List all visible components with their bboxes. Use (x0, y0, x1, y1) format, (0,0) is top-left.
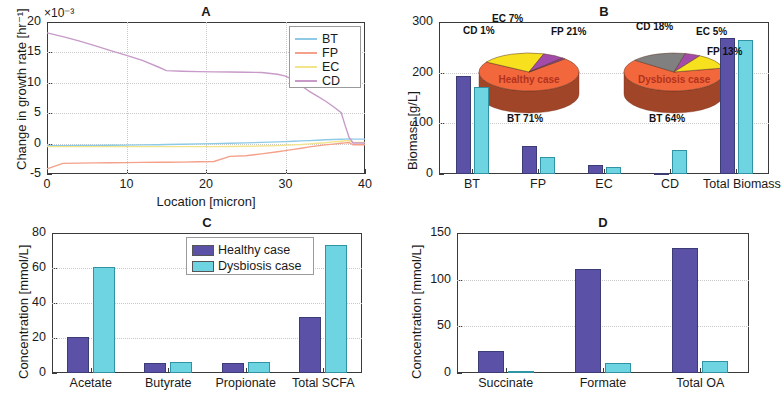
paneld-bar-succinate-healthy (478, 351, 504, 373)
panelc-bar-total-scfa-healthy (299, 317, 321, 373)
panelb-bar-ec-dysbiosis (606, 167, 621, 174)
legend-swatch-healthy (192, 245, 214, 256)
figure-root: A×10⁻³-505101520010203040Change in growt… (0, 0, 782, 414)
paneld-gridline (457, 280, 749, 281)
panel-a-ytickmark (47, 174, 52, 175)
panelc-xtick-0: Acetate (52, 376, 130, 390)
pie-healthy-label-2: EC 7% (492, 13, 523, 24)
panel-c: C020406080Concentration [mmol/L]AcetateB… (0, 207, 391, 414)
paneld-xtick-1: Formate (554, 376, 651, 390)
panelb-bar-total-biomass-dysbiosis (738, 40, 753, 174)
pie-dysbiosis-label-3: FP 13% (707, 46, 742, 57)
panelc-xtickmark (246, 368, 247, 373)
paneld-ytickmark (457, 373, 462, 374)
pie-dysbiosis-label-0: BT 64% (649, 113, 685, 124)
legend-label-healthy: Healthy case (218, 243, 290, 257)
panelc-bar-acetate-healthy (67, 337, 89, 373)
panelb-bar-bt-dysbiosis (474, 87, 489, 174)
panel-a-xtickmark (365, 169, 366, 174)
pie-dysbiosis-center-label: Dysbiosis case (638, 74, 710, 85)
pie-dysbiosis-label-2: EC 5% (696, 26, 727, 37)
panelc-xtick-1: Butyrate (130, 376, 208, 390)
panelc-bar-acetate-dysbiosis (93, 267, 115, 373)
panelc-xtick-2: Propionate (207, 376, 285, 390)
legend-line-ec (295, 66, 317, 68)
panelc-xtickmark (91, 368, 92, 373)
panel-a-legend-item-fp: FP (295, 46, 338, 60)
legend-label-ec: EC (322, 60, 339, 74)
paneld-bar-total-oa-dysbiosis (702, 361, 728, 373)
panel-a: A×10⁻³-505101520010203040Change in growt… (0, 0, 391, 207)
panelb-bar-cd-healthy (654, 173, 669, 175)
pie-healthy-label-1: FP 21% (551, 26, 586, 37)
legend-label-fp: FP (322, 46, 338, 60)
panelb-bar-bt-healthy (456, 76, 471, 174)
paneld-ylabel: Concentration [mmol/L] (409, 245, 424, 379)
paneld-xtickmark (506, 368, 507, 373)
panelc-bar-total-scfa-dysbiosis (325, 245, 347, 373)
panel-a-xtickmark (47, 169, 48, 174)
panel-c-legend-item-dysbiosis: Dysbiosis case (192, 259, 301, 273)
panel-a-exponent: ×10⁻³ (44, 6, 74, 20)
panelc-ytick: 80 (10, 225, 46, 239)
panelc-xtickmark (168, 368, 169, 373)
panel-a-gridline-v (206, 22, 207, 174)
paneld-bar-succinate-dysbiosis (508, 371, 534, 373)
panel-a-ytickmark (47, 22, 52, 23)
panel-a-gridline-v (127, 22, 128, 174)
panelc-bar-butyrate-healthy (144, 363, 166, 373)
legend-line-bt (295, 38, 317, 40)
paneld-ytickmark (457, 233, 462, 234)
pie-healthy-label-3: CD 1% (463, 25, 495, 36)
panel-a-xtick: 0 (29, 177, 65, 191)
panel-a-legend-item-ec: EC (295, 60, 339, 74)
pie-healthy-center-label: Healthy case (493, 74, 565, 85)
paneld-gridline (457, 326, 749, 327)
paneld-xtickmark (603, 368, 604, 373)
panel-b: B0100200300Biomass [g/L]BTFPECCDTotal Bi… (391, 0, 782, 207)
paneld-ytick: 150 (415, 225, 451, 239)
legend-line-cd (295, 80, 317, 82)
panelb-bar-cd-dysbiosis (672, 150, 687, 174)
legend-line-fp (295, 52, 317, 54)
pie-healthy-label-0: BT 71% (507, 113, 543, 124)
panelc-ytickmark (52, 373, 57, 374)
panelb-bar-total-biomass-healthy (720, 38, 735, 174)
panel-a-title: A (47, 4, 365, 19)
paneld-bar-formate-healthy (575, 269, 601, 373)
panel-a-legend-item-bt: BT (295, 32, 338, 46)
legend-label-dysbiosis: Dysbiosis case (218, 259, 301, 273)
pie-dysbiosis-label-1: CD 18% (636, 21, 673, 32)
paneld-xtick-0: Succinate (457, 376, 554, 390)
paneld-bar-formate-dysbiosis (605, 363, 631, 373)
panelc-ylabel: Concentration [mmol/L] (16, 245, 31, 379)
panelc-title: C (52, 215, 362, 230)
panelc-xtick-3: Total SCFA (285, 376, 363, 390)
panelc-ytickmark (52, 233, 57, 234)
panelb-bar-ec-healthy (588, 165, 603, 174)
panel-a-ylabel: Change in growth rate [hr⁻¹] (14, 8, 29, 170)
panel-a-xtick: 40 (347, 177, 383, 191)
panelc-bar-butyrate-dysbiosis (170, 362, 192, 373)
panel-d: D050100150Concentration [mmol/L]Succinat… (391, 207, 782, 414)
panelc-bar-propionate-dysbiosis (248, 362, 270, 373)
panel-a-xtick: 10 (109, 177, 145, 191)
panel-a-xtick: 30 (268, 177, 304, 191)
panel-c-legend-item-healthy: Healthy case (192, 243, 290, 257)
panelb-bar-fp-dysbiosis (540, 157, 555, 174)
legend-label-cd: CD (322, 74, 340, 88)
legend-swatch-dysbiosis (192, 261, 214, 272)
panel-a-legend-item-cd: CD (295, 74, 340, 88)
paneld-xtickmark (700, 368, 701, 373)
paneld-xtick-2: Total OA (652, 376, 749, 390)
paneld-bar-total-oa-healthy (672, 248, 698, 373)
legend-label-bt: BT (322, 32, 338, 46)
panelc-bar-propionate-healthy (222, 363, 244, 373)
paneld-title: D (457, 215, 749, 230)
panel-a-xtick: 20 (188, 177, 224, 191)
panel-a-gridline-v (286, 22, 287, 174)
panelc-xtickmark (323, 368, 324, 373)
panelb-bar-fp-healthy (522, 146, 537, 174)
